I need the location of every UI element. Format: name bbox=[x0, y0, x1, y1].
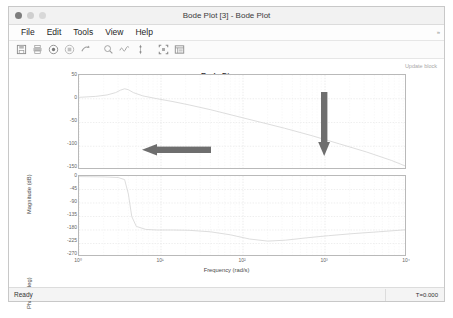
phase-ytick-m225: -225 bbox=[53, 237, 77, 243]
record-icon[interactable] bbox=[47, 43, 60, 56]
legend-icon[interactable] bbox=[173, 43, 186, 56]
xtick-1e0: 10⁰ bbox=[69, 257, 87, 263]
xtick-1e2: 10² bbox=[233, 257, 251, 263]
window-title: Bode Plot [3] - Bode Plot bbox=[9, 7, 444, 24]
mag-ytick-50: 50 bbox=[53, 71, 77, 77]
magnitude-subplot[interactable] bbox=[78, 74, 406, 169]
update-block-label[interactable]: Update block bbox=[405, 63, 437, 69]
menu-item-file[interactable]: File bbox=[15, 25, 41, 40]
print-icon[interactable] bbox=[31, 43, 44, 56]
menu-item-view[interactable]: View bbox=[99, 25, 129, 40]
xtick-1e1: 10¹ bbox=[151, 257, 169, 263]
fit-to-view-icon[interactable] bbox=[157, 43, 170, 56]
phase-ytick-m180: -180 bbox=[53, 224, 77, 230]
status-divider bbox=[385, 289, 386, 301]
waveform-icon[interactable] bbox=[118, 43, 131, 56]
menu-item-help[interactable]: Help bbox=[129, 25, 158, 40]
toolbar bbox=[9, 41, 444, 59]
phase-subplot[interactable] bbox=[78, 175, 406, 256]
step-forward-icon[interactable] bbox=[79, 43, 92, 56]
magnitude-axis-label: Magnitude (dB) bbox=[26, 174, 32, 214]
phase-ytick-m135: -135 bbox=[53, 211, 77, 217]
status-time-label: T=0.000 bbox=[416, 288, 438, 302]
menu-item-tools[interactable]: Tools bbox=[67, 25, 99, 40]
title-bar: Bode Plot [3] - Bode Plot bbox=[9, 7, 444, 25]
phase-ytick-m45: -45 bbox=[53, 185, 77, 191]
menu-overflow-icon[interactable]: » bbox=[437, 29, 440, 35]
menu-bar: File Edit Tools View Help » bbox=[9, 25, 444, 41]
rolloff-arrow bbox=[317, 92, 331, 160]
xtick-1e3: 10³ bbox=[315, 257, 333, 263]
bode-plot-window: Bode Plot [3] - Bode Plot File Edit Tool… bbox=[8, 6, 445, 302]
mag-ytick-m50: -50 bbox=[53, 117, 77, 123]
peak-arrow bbox=[142, 143, 212, 161]
save-icon[interactable] bbox=[15, 43, 28, 56]
mag-ytick-m150: -150 bbox=[53, 163, 77, 169]
stop-icon[interactable] bbox=[63, 43, 76, 56]
plot-area: Update block Bode Diagram Magnitude (dB)… bbox=[9, 59, 444, 298]
mag-ytick-0: 0 bbox=[53, 94, 77, 100]
status-bar: Ready T=0.000 bbox=[9, 287, 444, 301]
xtick-1e4: 10⁴ bbox=[397, 257, 415, 263]
phase-ytick-m90: -90 bbox=[53, 198, 77, 204]
menu-item-edit[interactable]: Edit bbox=[41, 25, 68, 40]
frequency-axis-label: Frequency (rad/s) bbox=[9, 267, 444, 273]
cursor-measure-icon[interactable] bbox=[134, 43, 147, 56]
mag-ytick-m100: -100 bbox=[53, 140, 77, 146]
phase-ytick-0: 0 bbox=[53, 172, 77, 178]
phase-ytick-m270: -270 bbox=[53, 250, 77, 256]
zoom-icon[interactable] bbox=[102, 43, 115, 56]
status-ready-label: Ready bbox=[14, 288, 33, 302]
